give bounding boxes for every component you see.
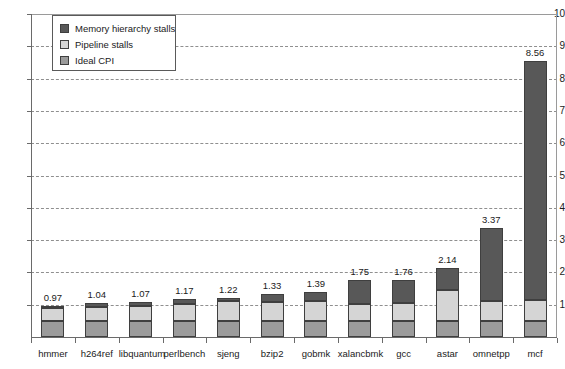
gridline: [31, 143, 557, 144]
bar-value-label: 1.04: [77, 290, 117, 300]
legend-item-ideal-cpi: Ideal CPI: [60, 53, 169, 68]
bar-value-label: 1.07: [121, 289, 161, 299]
x-axis-tick-label: mcf: [513, 348, 557, 359]
x-axis-tick-mark: [294, 338, 295, 343]
x-axis-tick-label: libquantum: [119, 348, 163, 359]
bar-group[interactable]: [436, 14, 459, 337]
bar-value-label: 8.56: [515, 48, 555, 58]
memory-hierarchy-swatch-icon: [60, 24, 69, 33]
x-axis-tick-mark: [119, 338, 120, 343]
bar-segment[interactable]: [480, 301, 503, 320]
x-axis-tick-mark: [31, 338, 32, 343]
bar-segment[interactable]: [129, 306, 152, 321]
x-axis-tick-label: bzip2: [250, 348, 294, 359]
bar-segment[interactable]: [261, 321, 284, 337]
x-axis-tick-mark: [250, 338, 251, 343]
bar-segment[interactable]: [85, 307, 108, 321]
bar-group[interactable]: [392, 14, 415, 337]
bar-segment[interactable]: [173, 321, 196, 337]
bar-value-label: 1.33: [252, 281, 292, 291]
bar-segment[interactable]: [348, 304, 371, 321]
bar-segment[interactable]: [304, 301, 327, 321]
x-axis-tick-label: gcc: [382, 348, 426, 359]
x-axis-tick-mark: [163, 338, 164, 343]
bar-segment[interactable]: [261, 302, 284, 321]
x-axis-tick-label: perlbench: [163, 348, 207, 359]
legend-label: Ideal CPI: [75, 56, 114, 66]
bar-value-label: 3.37: [471, 215, 511, 225]
bar-segment[interactable]: [480, 321, 503, 337]
bar-segment[interactable]: [41, 321, 64, 337]
bar-segment[interactable]: [304, 321, 327, 337]
bar-value-label: 2.14: [427, 255, 467, 265]
bar-segment[interactable]: [524, 61, 547, 300]
x-axis-tick-label: astar: [426, 348, 470, 359]
bar-segment[interactable]: [392, 321, 415, 337]
gridline: [31, 176, 557, 177]
bar-segment[interactable]: [129, 321, 152, 337]
x-axis-tick-mark: [206, 338, 207, 343]
x-axis-tick-mark: [382, 338, 383, 343]
x-axis-tick-label: gobmk: [294, 348, 338, 359]
bar-segment[interactable]: [217, 298, 240, 302]
pipeline-stalls-swatch-icon: [60, 40, 69, 49]
gridline: [31, 272, 557, 273]
gridline: [31, 111, 557, 112]
bar-segment[interactable]: [261, 294, 284, 302]
bar-segment[interactable]: [129, 302, 152, 306]
gridline: [31, 240, 557, 241]
bar-segment[interactable]: [41, 308, 64, 321]
bar-segment[interactable]: [436, 268, 459, 290]
bar-segment[interactable]: [85, 321, 108, 337]
bar-value-label: 0.97: [33, 293, 73, 303]
x-axis-tick-mark: [513, 338, 514, 343]
bar-group[interactable]: [524, 14, 547, 337]
x-axis-tick-mark: [557, 338, 558, 343]
bar-segment[interactable]: [436, 321, 459, 337]
legend-item-pipeline-stalls: Pipeline stalls: [60, 37, 169, 52]
bar-segment[interactable]: [348, 321, 371, 337]
bar-group[interactable]: [348, 14, 371, 337]
legend-label: Memory hierarchy stalls: [75, 24, 175, 34]
bar-group[interactable]: [480, 14, 503, 337]
x-axis-tick-mark: [338, 338, 339, 343]
x-axis-tick-label: xalancbmk: [338, 348, 382, 359]
x-axis-tick-label: hmmer: [31, 348, 75, 359]
bar-segment[interactable]: [392, 303, 415, 320]
bar-segment[interactable]: [41, 306, 64, 308]
gridline: [31, 305, 557, 306]
bar-value-label: 1.39: [296, 279, 336, 289]
bar-value-label: 1.17: [164, 286, 204, 296]
legend-label: Pipeline stalls: [75, 40, 133, 50]
bar-segment[interactable]: [173, 304, 196, 321]
plot-right-border: [556, 14, 557, 338]
cpi-stacked-bar-chart: 12345678910 0.971.041.071.171.221.331.39…: [0, 0, 565, 369]
x-axis-tick-mark: [426, 338, 427, 343]
legend-item-memory-hierarchy-stalls: Memory hierarchy stalls: [60, 21, 169, 36]
bar-value-label: 1.76: [384, 267, 424, 277]
bar-segment[interactable]: [348, 280, 371, 303]
bar-value-label: 1.22: [208, 285, 248, 295]
x-axis-tick-label: h264ref: [75, 348, 119, 359]
x-axis-tick-mark: [469, 338, 470, 343]
gridline: [31, 208, 557, 209]
bar-segment[interactable]: [524, 321, 547, 337]
bar-segment[interactable]: [436, 290, 459, 321]
bar-segment[interactable]: [217, 321, 240, 337]
x-axis-tick-label: sjeng: [206, 348, 250, 359]
bar-segment[interactable]: [480, 228, 503, 301]
ideal-cpi-swatch-icon: [60, 56, 69, 65]
bar-value-label: 1.75: [340, 267, 380, 277]
bar-segment[interactable]: [217, 301, 240, 320]
chart-legend: Memory hierarchy stalls Pipeline stalls …: [52, 15, 176, 71]
bar-segment[interactable]: [524, 300, 547, 321]
bar-segment[interactable]: [85, 303, 108, 307]
x-axis-tick-mark: [75, 338, 76, 343]
bar-segment[interactable]: [392, 280, 415, 303]
x-axis-tick-label: omnetpp: [469, 348, 513, 359]
gridline: [31, 79, 557, 80]
y-axis-line: [31, 14, 32, 338]
bar-segment[interactable]: [173, 299, 196, 304]
bar-segment[interactable]: [304, 292, 327, 301]
